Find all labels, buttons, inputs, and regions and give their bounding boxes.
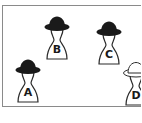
bowler-hat-icon [97,22,122,37]
bowler-hat-outline-icon [124,63,142,78]
figure-label-a: A [24,86,33,99]
figure-a: A [16,60,41,103]
figures-canvas: A B C D [0,0,141,123]
bowler-hat-icon [45,17,70,32]
bowler-hat-icon [16,60,41,75]
figure-label-d: D [131,89,140,102]
figure-label-c: C [105,48,113,61]
figure-b: B [45,17,70,60]
figure-label-b: B [53,43,61,56]
figure-c: C [97,22,122,65]
figure-d: D [124,63,142,106]
